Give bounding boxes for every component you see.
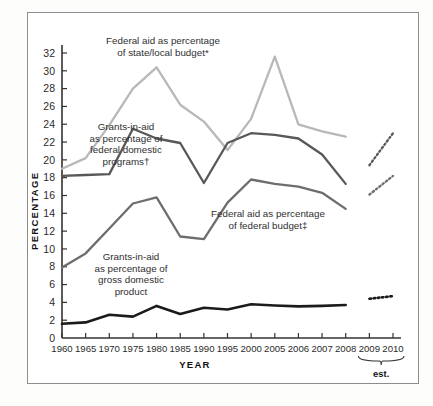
annotation-gdp: Grants-in-aidas percentage ofgross domes… [95, 251, 168, 297]
annotation-state-local-line: of state/local budget* [117, 47, 209, 58]
y-tick-label: 32 [43, 47, 55, 59]
series-line-3 [62, 304, 346, 324]
est-label: est. [373, 368, 389, 379]
annotation-state-local-line: Federal aid as percentage [106, 35, 220, 46]
y-tick-label: 16 [43, 189, 55, 201]
x-tick-label: 2007 [311, 343, 332, 354]
x-axis-title: YEAR [179, 359, 211, 370]
line-chart-canvas: 0246810121416182022242628303219601965197… [0, 0, 433, 406]
annotation-state-local: Federal aid as percentageof state/local … [106, 35, 220, 58]
x-tick-label: 2006 [288, 343, 309, 354]
series-estimate-2 [369, 176, 393, 195]
series-estimate-3 [369, 296, 393, 299]
x-tick-label: 2010 [382, 343, 403, 354]
annotation-gdp-line: product [115, 286, 148, 297]
est-bracket-group: est. [358, 356, 404, 379]
annotation-fed-budget-line: of federal budget‡ [229, 220, 308, 231]
x-tick-label: 1995 [217, 343, 238, 354]
series-estimate-1 [369, 133, 393, 165]
annotation-domestic-line: programs† [103, 156, 150, 167]
y-tick-label: 18 [43, 171, 55, 183]
y-tick-label: 20 [43, 154, 55, 166]
annotation-group: Federal aid as percentageof state/local … [90, 35, 326, 297]
x-tick-label: 2009 [359, 343, 380, 354]
x-tick-label: 1960 [51, 343, 72, 354]
est-bracket [358, 356, 404, 365]
annotation-gdp-line: gross domestic [98, 274, 164, 285]
y-tick-label: 30 [43, 65, 55, 77]
x-tick-label: 2000 [240, 343, 261, 354]
y-tick-label: 4 [49, 296, 55, 308]
y-tick-label: 2 [49, 314, 55, 326]
annotation-domestic-line: as percentage of [90, 133, 163, 144]
chart-figure: 0246810121416182022242628303219601965197… [0, 0, 433, 406]
x-tick-label: 2005 [264, 343, 285, 354]
y-tick-label: 10 [43, 243, 55, 255]
y-tick-label: 6 [49, 278, 55, 290]
y-tick-label: 14 [43, 207, 55, 219]
annotation-domestic-line: federal domestic [90, 144, 162, 155]
y-tick-label: 28 [43, 82, 55, 94]
annotation-fed-budget-line: Federal aid as percentage [211, 208, 325, 219]
y-tick-label: 24 [43, 118, 55, 130]
x-tick-label: 1985 [170, 343, 191, 354]
x-tick-label: 1980 [146, 343, 167, 354]
y-tick-label: 22 [43, 136, 55, 148]
x-tick-label: 2008 [335, 343, 356, 354]
annotation-domestic-line: Grants-in-aid [98, 121, 155, 132]
x-tick-label: 1970 [99, 343, 120, 354]
annotation-domestic: Grants-in-aidas percentage offederal dom… [90, 121, 163, 167]
annotation-gdp-line: Grants-in-aid [103, 251, 160, 262]
y-tick-label: 8 [49, 260, 55, 272]
x-tick-label: 1965 [75, 343, 96, 354]
annotation-gdp-line: as percentage of [95, 263, 168, 274]
annotation-fed-budget: Federal aid as percentageof federal budg… [211, 208, 325, 231]
x-tick-label: 1975 [122, 343, 143, 354]
y-tick-label: 12 [43, 225, 55, 237]
x-tick-label: 1990 [193, 343, 214, 354]
y-tick-label: 26 [43, 100, 55, 112]
y-tick-label: 0 [49, 332, 55, 344]
y-axis-title: PERCENTAGE [29, 172, 40, 250]
